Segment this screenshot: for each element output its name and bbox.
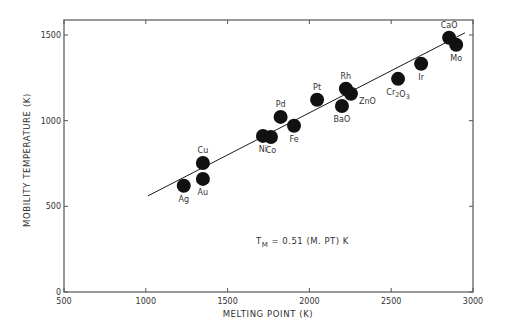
plot-frame [64, 20, 473, 292]
data-point-pt: Pt [310, 83, 324, 107]
point-label: Pt [313, 83, 321, 92]
point-marker [287, 119, 301, 133]
scatter-chart: 50010001500200025003000 050010001500 MEL… [0, 0, 507, 332]
x-tick-label: 500 [56, 297, 71, 306]
data-point-cr2o3: Cr2O3 [386, 72, 409, 101]
data-point-au: Au [196, 172, 210, 197]
data-point-bao: BaO [334, 99, 351, 124]
data-point-co: Co [264, 130, 278, 155]
data-point-zno: ZnO [344, 87, 376, 106]
equation-rest: = 0.51 (M. PT) K [268, 236, 349, 246]
y-axis-title: MOBILITY TEMPERATURE (K) [22, 93, 32, 227]
point-label: Cr2O3 [386, 88, 409, 101]
x-tick-label: 2000 [299, 297, 319, 306]
point-label: BaO [334, 115, 351, 124]
point-marker [196, 172, 210, 186]
data-point-pd: Pd [274, 100, 288, 124]
data-point-mo: Mo [449, 38, 463, 63]
point-marker [449, 38, 463, 52]
point-label: Rh [341, 72, 352, 81]
point-marker [177, 179, 191, 193]
point-label: Ir [418, 73, 424, 82]
point-marker [414, 57, 428, 71]
data-point-fe: Fe [287, 119, 301, 144]
equation-annotation: TM = 0.51 (M. PT) K [255, 236, 349, 249]
point-label: Pd [276, 100, 286, 109]
point-marker [335, 99, 349, 113]
point-label: Co [266, 146, 277, 155]
plot-border [64, 20, 473, 292]
point-label: Mo [450, 54, 462, 63]
point-label: ZnO [359, 97, 376, 106]
point-label: Ag [178, 195, 189, 204]
data-point-cu: Cu [196, 146, 210, 170]
point-marker [391, 72, 405, 86]
point-label: Fe [289, 135, 298, 144]
point-marker [274, 110, 288, 124]
x-tick-label: 1500 [217, 297, 237, 306]
point-label: Cu [198, 146, 209, 155]
x-axis-title: MELTING POINT (K) [223, 309, 314, 319]
y-tick-label: 0 [56, 288, 61, 297]
x-tick-label: 1000 [136, 297, 156, 306]
data-point-ag: Ag [177, 179, 191, 204]
point-marker [310, 93, 324, 107]
point-label: CaO [441, 21, 458, 30]
point-marker [196, 156, 210, 170]
x-tick-label: 3000 [463, 297, 483, 306]
point-marker [344, 87, 358, 101]
y-tick-label: 500 [46, 202, 61, 211]
data-point-ir: Ir [414, 57, 428, 82]
fit-line [148, 33, 465, 196]
y-tick-label: 1500 [41, 31, 61, 40]
y-tick-label: 1000 [41, 117, 61, 126]
y-axis-ticks: 050010001500 [41, 31, 473, 297]
point-marker [264, 130, 278, 144]
point-label: Au [198, 188, 209, 197]
data-points: AgCuAuNiCoPdFePtRhZnOBaOCr2O3IrCaOMo [177, 21, 463, 204]
x-tick-label: 2500 [381, 297, 401, 306]
